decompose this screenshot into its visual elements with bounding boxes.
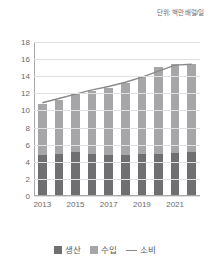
y-axis-tick-label: 4 bbox=[10, 157, 30, 166]
bar-segment-production[interactable] bbox=[104, 155, 113, 196]
bar-column[interactable] bbox=[38, 42, 47, 196]
chart-legend: 생산수입소비 bbox=[0, 246, 210, 255]
gridline bbox=[34, 145, 200, 146]
y-axis-tick-label: 10 bbox=[10, 106, 30, 115]
gridline bbox=[34, 196, 200, 197]
gridline bbox=[34, 42, 200, 43]
gridline bbox=[34, 179, 200, 180]
bar-segment-production[interactable] bbox=[154, 154, 163, 196]
gridline bbox=[34, 110, 200, 111]
bar-column[interactable] bbox=[55, 42, 64, 196]
bar-column[interactable] bbox=[88, 42, 97, 196]
bar-column[interactable] bbox=[154, 42, 163, 196]
legend-item[interactable]: 생산 bbox=[54, 246, 81, 255]
y-axis-tick-label: 6 bbox=[10, 140, 30, 149]
bar-column[interactable] bbox=[71, 42, 80, 196]
y-axis-tick-label: 12 bbox=[10, 89, 30, 98]
bar-segment-production[interactable] bbox=[88, 154, 97, 196]
bar-segment-import[interactable] bbox=[38, 104, 47, 154]
plot-area bbox=[34, 42, 200, 196]
y-axis-tick-label: 0 bbox=[10, 192, 30, 201]
y-axis-tick-label: 2 bbox=[10, 174, 30, 183]
y-axis-tick-label: 16 bbox=[10, 55, 30, 64]
bar-segment-production[interactable] bbox=[71, 152, 80, 196]
gridline bbox=[34, 128, 200, 129]
y-axis-tick-label: 8 bbox=[10, 123, 30, 132]
legend-label: 생산 bbox=[65, 246, 81, 255]
bar-segment-production[interactable] bbox=[55, 154, 64, 196]
x-axis-tick-label: 2019 bbox=[133, 200, 151, 209]
x-axis-tick-label: 2017 bbox=[100, 200, 118, 209]
bar-column[interactable] bbox=[121, 42, 130, 196]
y-axis-tick-label: 14 bbox=[10, 72, 30, 81]
x-axis-tick-label: 2013 bbox=[33, 200, 51, 209]
gridline bbox=[34, 93, 200, 94]
legend-square-swatch-icon bbox=[54, 246, 62, 254]
legend-item[interactable]: 소비 bbox=[126, 246, 156, 255]
bar-segment-production[interactable] bbox=[171, 153, 180, 196]
bar-segment-production[interactable] bbox=[187, 152, 196, 196]
bar-series-layer bbox=[34, 42, 200, 196]
bar-column[interactable] bbox=[138, 42, 147, 196]
bar-segment-import[interactable] bbox=[187, 64, 196, 151]
bar-column[interactable] bbox=[171, 42, 180, 196]
x-axis-tick-label: 2021 bbox=[166, 200, 184, 209]
bar-segment-import[interactable] bbox=[171, 64, 180, 153]
legend-line-swatch-icon bbox=[126, 250, 137, 251]
legend-label: 소비 bbox=[140, 246, 156, 255]
bar-segment-import[interactable] bbox=[71, 93, 80, 152]
bar-segment-production[interactable] bbox=[138, 154, 147, 196]
gridline bbox=[34, 162, 200, 163]
legend-item[interactable]: 수입 bbox=[90, 246, 117, 255]
unit-annotation: 단위: 백만 배럴/일 bbox=[157, 7, 204, 17]
y-axis-line bbox=[34, 42, 35, 196]
chart-container: 단위: 백만 배럴/일 20132015201720192021 생산수입소비 … bbox=[0, 0, 210, 275]
gridline bbox=[34, 59, 200, 60]
legend-label: 수입 bbox=[101, 246, 117, 255]
x-axis-tick-labels: 20132015201720192021 bbox=[34, 200, 200, 214]
bar-column[interactable] bbox=[187, 42, 196, 196]
legend-square-swatch-icon bbox=[90, 246, 98, 254]
x-axis-tick-label: 2015 bbox=[67, 200, 85, 209]
bar-segment-import[interactable] bbox=[138, 76, 147, 154]
gridline bbox=[34, 76, 200, 77]
y-axis-tick-label: 18 bbox=[10, 38, 30, 47]
bar-column[interactable] bbox=[104, 42, 113, 196]
bar-segment-production[interactable] bbox=[121, 155, 130, 196]
